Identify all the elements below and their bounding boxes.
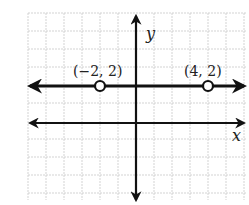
open-point-neg2-2 (95, 81, 105, 91)
grid (28, 13, 247, 200)
y-axis-label: y (145, 24, 156, 43)
open-point-4-2 (203, 81, 213, 91)
coordinate-plane: (−2, 2) (4, 2) y x (0, 0, 249, 205)
point-label-1: (−2, 2) (73, 63, 122, 79)
point-label-2: (4, 2) (184, 63, 222, 79)
x-axis-label: x (232, 126, 241, 145)
